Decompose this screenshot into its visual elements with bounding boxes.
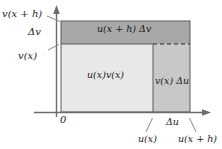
y-axis-arrowhead [53, 5, 60, 14]
x-axis-arrowhead [202, 109, 211, 116]
leader-u-x-plus-h [190, 118, 197, 132]
leader-v-x [48, 45, 59, 51]
y-label-v-x-plus-h: v(x + h) [2, 9, 42, 19]
x-label-u-x: u(x) [138, 134, 157, 144]
region-label-main-area: u(x)v(x) [87, 70, 124, 80]
y-label-v-x: v(x) [18, 51, 37, 61]
x-label-delta-u: Δu [166, 117, 179, 127]
y-label-delta-v: Δv [28, 27, 41, 37]
leader-v-x-plus-h [47, 16, 60, 22]
origin-label: 0 [60, 115, 66, 125]
x-label-u-x-plus-h: u(x + h) [178, 134, 217, 144]
leader-u-x [146, 118, 153, 132]
region-label-right-column: v(x) Δu [155, 76, 189, 86]
product-rule-area-diagram: v(x + h) Δv v(x) 0 u(x + h) Δv u(x)v(x) … [0, 0, 222, 149]
region-label-top-strip: u(x + h) Δv [97, 24, 151, 34]
